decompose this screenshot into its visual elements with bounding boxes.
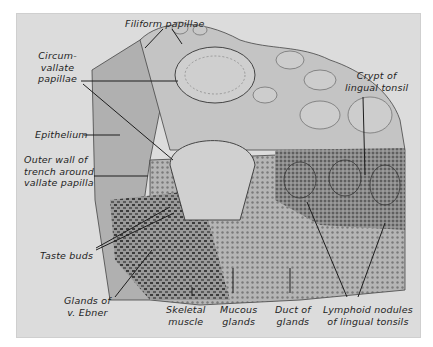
tissue-block [92,22,405,305]
label-mucous-glands: Mucous glands [220,304,257,327]
label-lymphoid-nodules: Lymphoid nodules of lingual tonsils [323,304,413,327]
label-taste-buds: Taste buds [40,250,93,262]
label-outer-wall-of-trench: Outer wall of trench around vallate papi… [24,154,94,189]
label-duct-of-glands: Duct of glands [275,304,311,327]
label-epithelium: Epithelium [35,129,88,141]
label-circumvallate-papillae: Circum- vallate papillae [38,50,77,85]
label-filiform-papillae: Filiform papillae [125,18,205,30]
label-crypt-of-lingual-tonsil: Crypt of lingual tonsil [345,70,408,93]
label-skeletal-muscle: Skeletal muscle [166,304,206,327]
label-glands-of-v-ebner: Glands of v. Ebner [64,295,111,318]
